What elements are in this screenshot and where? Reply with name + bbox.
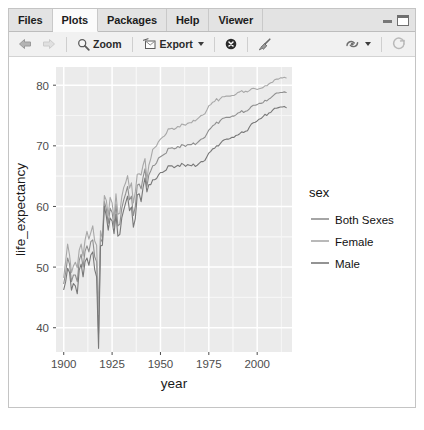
arrow-right-icon [42, 38, 56, 50]
export-button[interactable]: Export [139, 37, 208, 51]
tab-plots[interactable]: Plots [53, 9, 98, 32]
plots-toolbar: Zoom Export [9, 32, 415, 57]
close-circle-icon [225, 38, 237, 50]
legend-key-label: Male [335, 258, 360, 270]
refresh-button[interactable] [388, 36, 410, 52]
y-tick-label: 80 [36, 80, 49, 92]
arrow-left-icon [18, 38, 32, 50]
y-axis-title: life_expectancy [13, 163, 28, 256]
publish-button[interactable] [341, 37, 375, 51]
export-button-label: Export [160, 38, 193, 50]
tab-files-label: Files [18, 14, 43, 26]
previous-plot-button[interactable] [14, 37, 36, 51]
ggplot-line-chart: 405060708019001925195019752000 sexBoth S… [9, 57, 415, 407]
chevron-down-icon [198, 42, 204, 46]
tab-viewer[interactable]: Viewer [209, 9, 263, 31]
pane-tab-bar: Files Plots Packages Help Viewer [9, 9, 415, 32]
tab-packages-label: Packages [107, 14, 157, 26]
toolbar-separator [381, 37, 382, 52]
x-tick-label: 2000 [244, 358, 270, 370]
toolbar-separator [132, 37, 133, 52]
maximize-icon[interactable] [397, 15, 409, 26]
next-plot-button[interactable] [38, 37, 60, 51]
zoom-button-label: Zoom [93, 38, 122, 50]
magnifier-icon [77, 38, 90, 51]
legend-key-label: Both Sexes [335, 214, 394, 226]
toolbar-separator [66, 37, 67, 52]
tab-help-label: Help [176, 14, 199, 26]
toolbar-separator [247, 37, 248, 52]
x-axis-title: year [161, 376, 188, 391]
zoom-button[interactable]: Zoom [73, 37, 126, 52]
plot-canvas[interactable]: 405060708019001925195019752000 sexBoth S… [9, 57, 415, 407]
y-tick-label: 60 [36, 201, 49, 213]
toolbar-separator [214, 37, 215, 52]
chevron-down-icon [365, 42, 371, 46]
remove-plot-button[interactable] [221, 37, 241, 51]
refresh-icon [392, 37, 406, 51]
y-tick-label: 40 [36, 322, 49, 334]
legend-title: sex [309, 185, 330, 200]
y-tick-label: 50 [36, 262, 49, 274]
tab-plots-label: Plots [62, 14, 88, 26]
window-controls [383, 9, 415, 31]
broom-icon [258, 38, 272, 51]
tab-viewer-label: Viewer [218, 14, 253, 26]
tab-help[interactable]: Help [167, 9, 209, 31]
plot-panel [56, 67, 292, 352]
x-tick-label: 1900 [51, 358, 77, 370]
x-tick-label: 1925 [99, 358, 125, 370]
x-tick-label: 1950 [148, 358, 174, 370]
x-tick-label: 1975 [196, 358, 222, 370]
tab-packages[interactable]: Packages [98, 9, 167, 31]
y-tick-label: 70 [36, 140, 49, 152]
tab-files[interactable]: Files [9, 9, 53, 31]
plots-pane: Files Plots Packages Help Viewer [8, 8, 416, 408]
export-icon [143, 38, 157, 50]
publish-icon [345, 38, 360, 50]
minimize-icon[interactable] [383, 20, 392, 23]
legend-key-label: Female [335, 236, 373, 248]
clear-all-plots-button[interactable] [254, 37, 276, 52]
